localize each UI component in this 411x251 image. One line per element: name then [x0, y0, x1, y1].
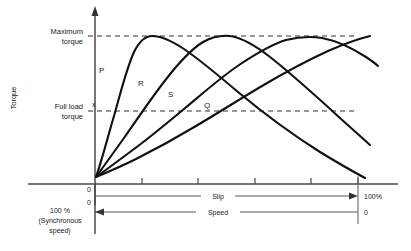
speed-axis-name: Speed: [208, 209, 228, 217]
chart-canvas: P R S Q x Maximum torque Full load torqu…: [0, 0, 411, 251]
curve-P: [96, 36, 365, 178]
slip-origin-zero: 0: [87, 186, 91, 193]
speed-right-value: 0: [364, 209, 368, 216]
synchronous-label-line1: 100 %: [50, 207, 70, 214]
curve-label-Q: Q: [204, 101, 210, 110]
x-axis: [28, 178, 398, 184]
maximum-torque-label-line2: torque: [62, 37, 83, 46]
slip-right-value: 100%: [364, 193, 382, 200]
curve-S: [96, 37, 378, 177]
speed-axis-row: Speed 0: [95, 209, 368, 218]
maximum-torque-label-line1: Maximum: [50, 27, 83, 36]
speed-arrowhead: [95, 209, 104, 216]
curve-R: [96, 36, 370, 177]
slip-axis-name: Slip: [212, 193, 224, 201]
torque-slip-characteristic-figure: P R S Q x Maximum torque Full load torqu…: [0, 0, 411, 251]
slip-arrowhead: [349, 193, 358, 200]
full-load-torque-label-line2: torque: [62, 112, 83, 121]
full-load-torque-label-line1: Full load: [55, 102, 83, 111]
curve-label-R: R: [138, 79, 144, 88]
y-axis-title: Torque: [9, 87, 18, 110]
curve-label-P: P: [99, 66, 104, 75]
synchronous-label-line2: (Synchronous: [38, 217, 82, 225]
y-axis-arrowhead: [92, 6, 99, 16]
point-marker-x: x: [92, 101, 96, 108]
synchronous-label-line3: speed): [49, 227, 70, 235]
speed-origin-zero: 0: [87, 199, 91, 206]
curve-label-S: S: [168, 90, 173, 99]
slip-axis-row: Slip 100%: [95, 193, 382, 202]
